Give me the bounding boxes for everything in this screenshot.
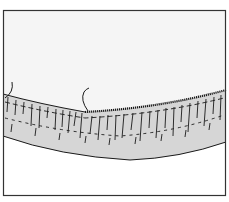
illustration xyxy=(0,0,229,202)
upper-region xyxy=(3,11,226,112)
